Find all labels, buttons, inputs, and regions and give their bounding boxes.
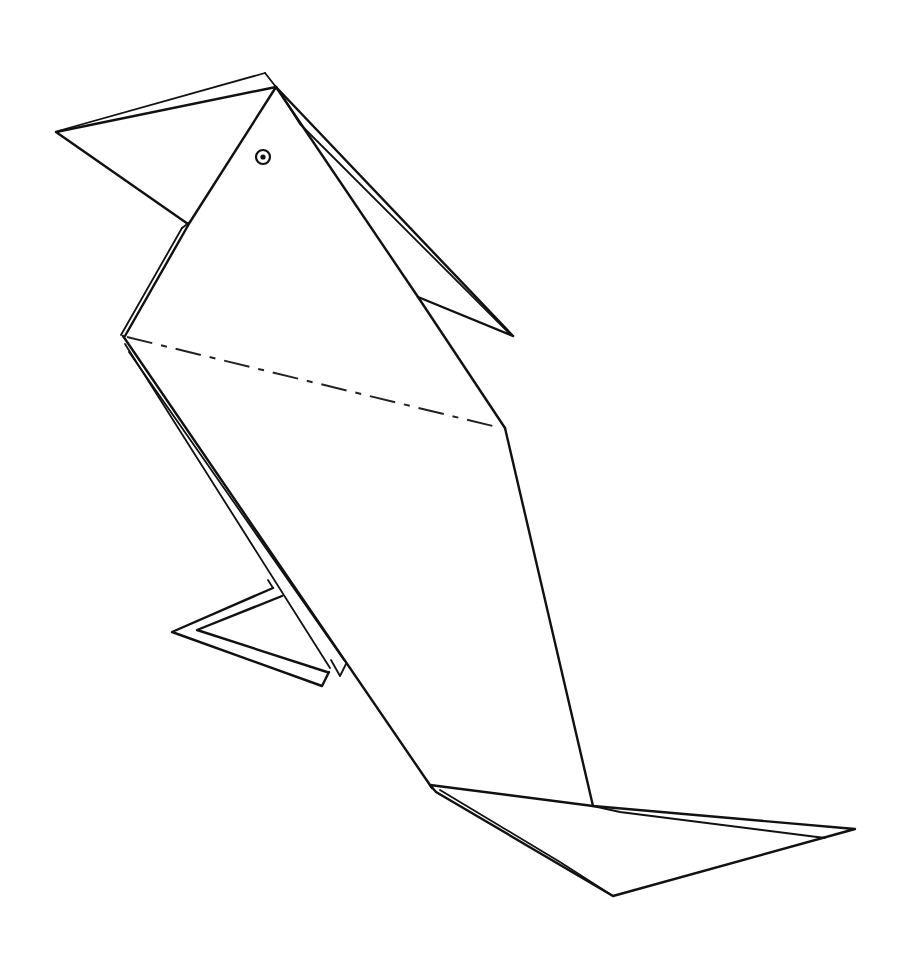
beak [56,73,276,228]
leg [172,580,346,686]
eye-icon [256,150,270,164]
head [121,87,276,336]
origami-bird-drawing [0,0,912,964]
fold-line [127,337,501,428]
body [123,336,593,806]
tail [430,785,855,896]
wing [276,87,513,428]
